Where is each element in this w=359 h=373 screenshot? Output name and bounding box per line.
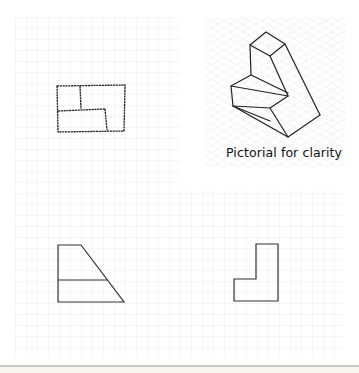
- grid-bottom: [15, 190, 345, 358]
- grid-top-left: [15, 17, 180, 190]
- drawing-canvas: [0, 0, 359, 373]
- pictorial-caption: Pictorial for clarity: [226, 145, 342, 160]
- bottom-strip: [0, 367, 359, 373]
